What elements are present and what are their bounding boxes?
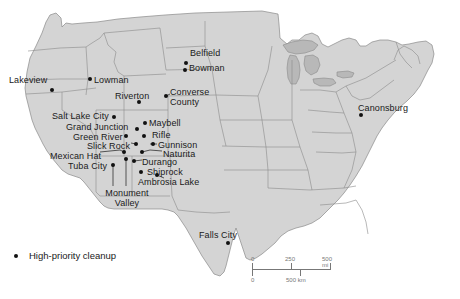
site-dot-grand-junction[interactable] [135, 127, 139, 131]
site-dot-mexican-hat[interactable] [122, 150, 126, 154]
scale-label-km-0: 0 [251, 277, 254, 283]
site-dot-rifle[interactable] [142, 134, 146, 138]
site-label-converse-county: Converse County [170, 88, 224, 107]
site-dot-lakeview[interactable] [50, 88, 54, 92]
site-label-bowman: Bowman [189, 64, 225, 74]
site-label-lakeview: Lakeview [9, 76, 47, 86]
site-label-falls-city: Falls City [199, 231, 237, 241]
site-dot-tuba-city[interactable] [111, 163, 115, 167]
site-dot-slick-rock[interactable] [134, 142, 138, 146]
site-label-canonsburg: Canonsburg [358, 104, 408, 114]
site-dot-belfield[interactable] [184, 61, 188, 65]
scale-tick-km-500 [300, 269, 301, 276]
map-figure: LakeviewLowmanBelfieldBowmanRivertonConv… [0, 0, 460, 299]
map-legend: High-priority cleanup [14, 250, 116, 261]
legend-dot-icon [14, 254, 18, 258]
site-dot-salt-lake-city[interactable] [112, 115, 116, 119]
site-label-riverton: Riverton [115, 92, 149, 102]
scale-label-mi-500: 500 mi [322, 256, 334, 268]
site-label-monument-valley: Monument Valley [100, 189, 154, 208]
site-dot-gunnison[interactable] [151, 142, 155, 146]
site-dot-falls-city[interactable] [226, 241, 230, 245]
scale-tick-km-0 [252, 269, 253, 276]
site-dot-converse-county[interactable] [164, 94, 168, 98]
site-label-salt-lake-city: Salt Lake City [52, 112, 109, 122]
site-dot-green-river[interactable] [124, 134, 128, 138]
site-label-tuba-city: Tuba City [68, 162, 107, 172]
site-label-maybell: Maybell [149, 119, 181, 129]
scale-label-km-500: 500 km [286, 277, 306, 283]
site-dot-monument-valley[interactable] [124, 157, 128, 161]
site-dot-canonsburg[interactable] [359, 113, 363, 117]
scale-tick-mi-250 [291, 263, 292, 270]
site-dot-naturita[interactable] [140, 150, 144, 154]
site-dot-maybell[interactable] [143, 121, 147, 125]
legend-label: High-priority cleanup [29, 250, 116, 261]
site-dot-lowman[interactable] [88, 77, 92, 81]
site-label-belfield: Belfield [190, 49, 220, 59]
site-label-lowman: Lowman [94, 76, 129, 86]
site-dot-durango[interactable] [132, 159, 136, 163]
scale-bar: 0 250 500 mi 0 500 km [252, 256, 334, 292]
scale-label-mi-250: 250 [285, 256, 295, 262]
scale-label-mi-0: 0 [251, 256, 254, 262]
site-label-ambrosia-lake: Ambrosia Lake [138, 178, 199, 188]
site-dot-shiprock[interactable] [139, 170, 143, 174]
site-dot-bowman[interactable] [183, 68, 187, 72]
